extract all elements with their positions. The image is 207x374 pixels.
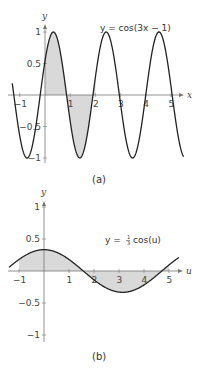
svg-text:−1: −1 (27, 330, 40, 340)
x-axis-arrow-b (178, 269, 183, 273)
svg-text:y =: y = (105, 235, 121, 245)
svg-text:0.5: 0.5 (26, 234, 40, 244)
svg-text:3: 3 (117, 275, 123, 285)
equation-label-b: y = 1 3 cos(u) (105, 234, 161, 246)
y-axis-label-a: y (41, 11, 48, 21)
y-axis-arrow-b (42, 201, 46, 206)
svg-text:1: 1 (34, 202, 40, 212)
svg-text:−0.5: −0.5 (18, 298, 40, 308)
caption-b: (b) (92, 351, 106, 362)
y-axis-label-b: y (40, 187, 47, 197)
svg-text:−1: −1 (13, 275, 26, 285)
svg-text:−0.5: −0.5 (19, 122, 41, 132)
svg-text:2: 2 (93, 99, 99, 109)
x-axis-label-a: x (187, 90, 192, 100)
svg-text:1: 1 (67, 275, 73, 285)
x-axis-label-b: u (186, 266, 192, 276)
svg-text:3: 3 (127, 240, 130, 246)
chart-a: −11234510.5−0.5−1 x y y = cos(3x − 1) (a… (8, 11, 192, 185)
figure: −11234510.5−0.5−1 x y y = cos(3x − 1) (a… (0, 0, 207, 374)
svg-text:0.5: 0.5 (27, 59, 41, 69)
svg-text:5: 5 (167, 275, 173, 285)
x-axis-arrow-a (179, 93, 184, 97)
equation-label-a: y = cos(3x − 1) (100, 23, 171, 33)
y-axis-arrow-a (43, 24, 47, 29)
svg-text:cos(u): cos(u) (133, 235, 161, 245)
chart-b: −11234510.5−0.5−1 u y y = 1 3 cos(u) (b) (8, 187, 192, 362)
caption-a: (a) (92, 174, 106, 185)
svg-text:1: 1 (35, 27, 41, 37)
